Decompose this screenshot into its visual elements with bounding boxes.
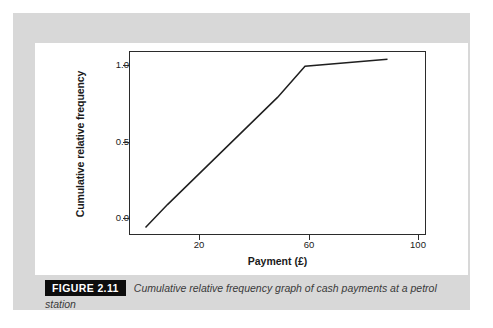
scanned-page-panel: 0.0 0.5 1.0 20 60 <box>13 13 470 310</box>
figure-caption: FIGURE 2.11 Cumulative relative frequenc… <box>45 280 465 311</box>
x-tick-0: 20 <box>179 239 219 250</box>
x-tick-label-2: 100 <box>410 239 426 250</box>
caption-first-line: FIGURE 2.11 Cumulative relative frequenc… <box>45 280 465 296</box>
figure-card: 0.0 0.5 1.0 20 60 <box>35 43 468 275</box>
x-tick-label-0: 20 <box>194 239 205 250</box>
figure-page: 0.0 0.5 1.0 20 60 <box>0 0 493 328</box>
x-tick-label-1: 60 <box>304 239 315 250</box>
caption-text-line-1: Cumulative relative frequency graph of c… <box>134 282 437 295</box>
y-axis-label: Cumulative relative frequency <box>74 64 86 224</box>
y-tick-mark-1 <box>123 142 129 143</box>
x-axis-label: Payment (£) <box>129 255 426 267</box>
plot-line-svg <box>129 51 426 235</box>
caption-text-line-2: station <box>45 298 465 311</box>
y-tick-mark-2 <box>123 65 129 66</box>
cumulative-frequency-line <box>146 59 388 227</box>
figure-number-badge: FIGURE 2.11 <box>45 280 126 296</box>
chart-area: 0.0 0.5 1.0 20 60 <box>35 43 468 275</box>
x-tick-1: 60 <box>289 239 329 250</box>
y-tick-mark-0 <box>123 218 129 219</box>
x-tick-2: 100 <box>398 239 438 250</box>
